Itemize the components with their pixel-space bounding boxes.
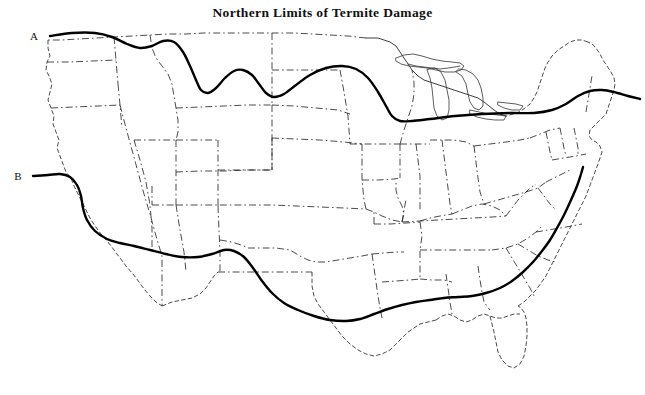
line-b-label: B (14, 170, 21, 182)
us-termite-map: A B (0, 0, 645, 395)
termite-limit-line-b (33, 167, 583, 321)
national-outline (46, 33, 615, 368)
great-lakes (396, 54, 523, 120)
map-figure: Northern Limits of Termite Damage (0, 0, 645, 395)
line-a-label: A (30, 30, 38, 42)
termite-limit-line-a (50, 33, 640, 122)
state-boundaries (47, 33, 592, 318)
